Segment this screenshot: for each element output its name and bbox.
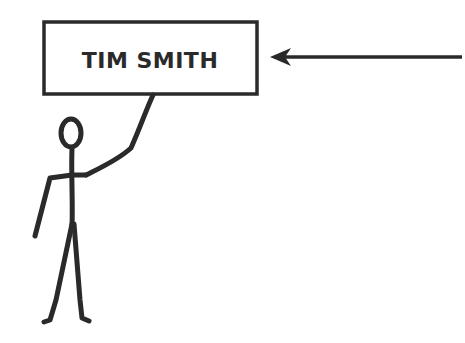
pointer-arrow (270, 48, 462, 66)
sign-label: TIM SMITH (82, 48, 219, 73)
figure-right-leg (74, 224, 89, 321)
figure-body (72, 148, 73, 226)
figure-left-arm (35, 175, 72, 236)
sign-pole (86, 95, 153, 175)
stick-figure (35, 95, 153, 322)
diagram-canvas: TIM SMITH (0, 0, 465, 343)
name-sign: TIM SMITH (44, 22, 257, 94)
figure-left-leg (44, 224, 72, 322)
figure-head (61, 119, 81, 147)
